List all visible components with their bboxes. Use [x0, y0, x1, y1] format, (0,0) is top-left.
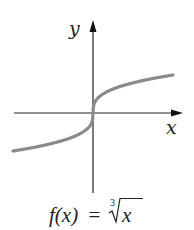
caption-lhs: f(x): [49, 203, 78, 227]
cube-root-graph: y x f(x) = 3 x: [0, 0, 194, 230]
y-axis-label: y: [68, 17, 80, 39]
svg-text:f(x) =: f(x) =: [49, 203, 100, 227]
y-axis-arrow-icon: [90, 20, 97, 32]
radicand: x: [121, 203, 132, 227]
caption-equals: =: [88, 203, 100, 227]
function-caption: f(x) = 3 x: [49, 197, 143, 227]
x-axis-label: x: [166, 116, 177, 138]
root-index: 3: [110, 197, 115, 208]
